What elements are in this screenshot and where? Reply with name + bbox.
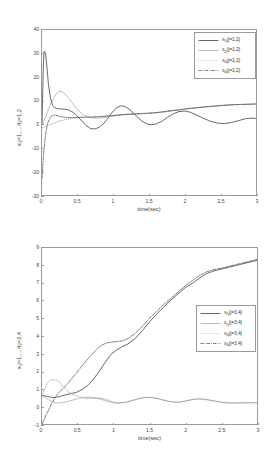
x-tick-mark bbox=[257, 194, 258, 197]
y-tick-label: 20 bbox=[33, 74, 39, 80]
legend-line-sample bbox=[198, 47, 219, 54]
legend-line-sample bbox=[200, 330, 221, 337]
y-tick-label: 6 bbox=[36, 297, 39, 303]
x-tick-mark bbox=[41, 194, 42, 197]
y-tick-mark bbox=[41, 247, 44, 248]
y-tick-label: 30 bbox=[33, 50, 39, 56]
y-tick-mark bbox=[41, 354, 44, 355]
legend-line-sample bbox=[198, 57, 219, 64]
legend-line-sample bbox=[200, 310, 221, 317]
x-tick-mark bbox=[222, 423, 223, 426]
y-tick-label: 8 bbox=[36, 262, 39, 268]
legend-item-4[interactable]: x4j(j=3,4) bbox=[200, 339, 252, 348]
legend-item-label: x1j(j=1,2) bbox=[222, 36, 240, 44]
y-tick-label: 40 bbox=[33, 26, 39, 32]
y-tick-mark bbox=[41, 77, 44, 78]
y-tick-mark bbox=[41, 407, 44, 408]
y-tick-mark bbox=[41, 389, 44, 390]
y-tick-mark bbox=[41, 425, 44, 426]
x-tick-label: 1.5 bbox=[140, 427, 160, 433]
x-tick-label: 2.5 bbox=[211, 198, 231, 204]
y-tick-label: 4 bbox=[36, 333, 39, 339]
x-tick-label: 1 bbox=[103, 198, 123, 204]
y-tick-mark bbox=[41, 172, 44, 173]
y-tick-label: 5 bbox=[36, 315, 39, 321]
x-tick-mark bbox=[113, 423, 114, 426]
legend-line-sample bbox=[198, 37, 219, 44]
legend-line-sample bbox=[198, 67, 219, 74]
y-tick-mark bbox=[41, 372, 44, 373]
y-tick-mark bbox=[41, 148, 44, 149]
x-tick-label: 1.5 bbox=[139, 198, 159, 204]
legend-item-label: x4j(j=1,2) bbox=[222, 67, 240, 75]
x-tick-mark bbox=[113, 194, 114, 197]
figure-top: 403020100-10-20-3000.511.522.53 time(sec… bbox=[0, 0, 275, 230]
y-tick-mark bbox=[41, 336, 44, 337]
x-tick-mark bbox=[186, 423, 187, 426]
series-line-2 bbox=[42, 91, 256, 124]
x-tick-mark bbox=[221, 194, 222, 197]
y-tick-mark bbox=[41, 318, 44, 319]
x-tick-mark bbox=[149, 194, 150, 197]
y-tick-mark bbox=[41, 265, 44, 266]
x-axis-label-top: time(sec) bbox=[41, 206, 257, 212]
y-tick-mark bbox=[41, 29, 44, 30]
legend-top[interactable]: x1j(j=1,2)x2j(j=1,2)x3j(j=1,2)x4j(j=1,2) bbox=[194, 32, 256, 79]
legend-item-3[interactable]: x3j(j=3,4) bbox=[200, 329, 252, 338]
y-axis-label-top: xiji=1,...,4;j=1,2 bbox=[16, 109, 22, 146]
y-tick-label: 7 bbox=[36, 279, 39, 285]
x-tick-mark bbox=[185, 194, 186, 197]
y-tick-label: 3 bbox=[36, 351, 39, 357]
y-tick-mark bbox=[41, 124, 44, 125]
legend-item-label: x2j(j=3,4) bbox=[224, 319, 242, 327]
x-axis-label-bottom: time(sec) bbox=[41, 435, 258, 441]
x-tick-label: 1 bbox=[103, 427, 123, 433]
x-tick-label: 2.5 bbox=[212, 427, 232, 433]
x-tick-mark bbox=[77, 423, 78, 426]
legend-line-sample bbox=[200, 320, 221, 327]
series-line-4 bbox=[42, 104, 256, 178]
y-tick-label: 10 bbox=[33, 97, 39, 103]
legend-item-label: x4j(j=3,4) bbox=[224, 340, 242, 348]
y-tick-label: -20 bbox=[32, 169, 39, 175]
figure-bottom: 9876543210-100.511.522.53 time(sec) xiji… bbox=[0, 230, 275, 461]
y-tick-label: 9 bbox=[36, 244, 39, 250]
x-tick-label: 0 bbox=[31, 427, 51, 433]
x-tick-mark bbox=[150, 423, 151, 426]
y-tick-label: 2 bbox=[36, 368, 39, 374]
legend-item-2[interactable]: x2j(j=3,4) bbox=[200, 319, 252, 328]
y-tick-mark bbox=[41, 283, 44, 284]
x-tick-mark bbox=[41, 423, 42, 426]
x-tick-label: 2 bbox=[176, 427, 196, 433]
x-tick-mark bbox=[258, 423, 259, 426]
y-tick-mark bbox=[41, 196, 44, 197]
legend-item-label: x3j(j=3,4) bbox=[224, 330, 242, 338]
legend-item-label: x3j(j=1,2) bbox=[222, 57, 240, 65]
series-line-2 bbox=[42, 396, 257, 403]
legend-line-sample bbox=[200, 340, 221, 347]
x-tick-label: 0 bbox=[31, 198, 51, 204]
legend-bottom[interactable]: x1j(j=3,4)x2j(j=3,4)x3j(j=3,4)x4j(j=3,4) bbox=[196, 305, 256, 352]
legend-item-1[interactable]: x1j(j=3,4) bbox=[200, 309, 252, 318]
y-tick-label: 0 bbox=[36, 121, 39, 127]
y-tick-label: 0 bbox=[36, 404, 39, 410]
x-tick-label: 2 bbox=[175, 198, 195, 204]
x-tick-label: 3 bbox=[248, 427, 268, 433]
legend-item-2[interactable]: x2j(j=1,2) bbox=[198, 46, 252, 55]
legend-item-label: x2j(j=1,2) bbox=[222, 46, 240, 54]
x-tick-mark bbox=[77, 194, 78, 197]
x-tick-label: 0.5 bbox=[67, 198, 87, 204]
legend-item-label: x1j(j=3,4) bbox=[224, 309, 242, 317]
legend-item-3[interactable]: x3j(j=1,2) bbox=[198, 56, 252, 65]
y-tick-label: -10 bbox=[32, 145, 39, 151]
legend-item-1[interactable]: x1j(j=1,2) bbox=[198, 36, 252, 45]
y-tick-mark bbox=[41, 53, 44, 54]
x-tick-label: 0.5 bbox=[67, 427, 87, 433]
x-tick-label: 3 bbox=[247, 198, 267, 204]
y-axis-label-bottom: xiji=1,...,4;j=3,4 bbox=[16, 332, 22, 369]
legend-item-4[interactable]: x4j(j=1,2) bbox=[198, 66, 252, 75]
y-tick-mark bbox=[41, 300, 44, 301]
y-tick-label: 1 bbox=[36, 386, 39, 392]
y-tick-mark bbox=[41, 101, 44, 102]
